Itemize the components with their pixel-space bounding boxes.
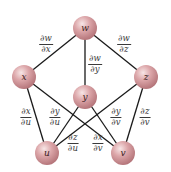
fraction-denominator: ∂z — [120, 45, 129, 55]
partial-derivative-label: ∂z∂u — [68, 133, 79, 153]
partial-derivative-label: ∂w∂y — [88, 54, 102, 74]
node-label-w: w — [81, 23, 89, 33]
fraction-denominator: ∂v — [140, 118, 149, 128]
fraction-numerator: ∂w — [88, 54, 102, 65]
node-label-x: x — [21, 72, 26, 82]
fraction-denominator: ∂u — [68, 144, 78, 154]
node-label-v: v — [120, 148, 125, 158]
partial-derivative-label: ∂x∂v — [92, 133, 103, 153]
node-label-y: y — [82, 92, 87, 102]
fraction-numerator: ∂x — [92, 133, 103, 144]
fraction-numerator: ∂z — [140, 107, 151, 118]
fraction-denominator: ∂u — [21, 118, 31, 128]
fraction-numerator: ∂w — [117, 34, 131, 45]
fraction-denominator: ∂v — [111, 118, 120, 128]
node-label-u: u — [44, 148, 50, 158]
partial-derivative-label: ∂x∂u — [20, 107, 31, 127]
fraction-numerator: ∂y — [49, 107, 60, 118]
partial-derivative-label: ∂y∂v — [110, 107, 121, 127]
fraction-denominator: ∂u — [50, 118, 60, 128]
fraction-denominator: ∂y — [90, 65, 99, 75]
node-label-z: z — [144, 72, 149, 82]
nodes-layer — [12, 16, 158, 165]
fraction-numerator: ∂z — [68, 133, 79, 144]
fraction-numerator: ∂x — [20, 107, 31, 118]
partial-derivative-label: ∂z∂v — [140, 107, 151, 127]
partial-derivative-label: ∂y∂u — [49, 107, 60, 127]
fraction-numerator: ∂y — [110, 107, 121, 118]
partial-derivative-label: ∂w∂z — [117, 34, 131, 54]
fraction-numerator: ∂w — [39, 34, 53, 45]
fraction-denominator: ∂v — [93, 144, 102, 154]
partial-derivative-label: ∂w∂x — [39, 34, 53, 54]
fraction-denominator: ∂x — [41, 45, 50, 55]
